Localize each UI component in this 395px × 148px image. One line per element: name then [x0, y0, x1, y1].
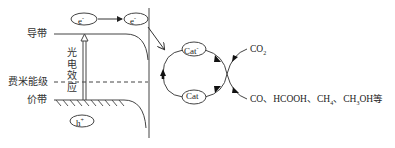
valence-band-line [54, 100, 146, 128]
bold-arrow-product-out [232, 87, 239, 93]
electron-oval [71, 13, 97, 25]
cat-reduced-label: Cat- [184, 44, 199, 56]
electron-to-catalyst-arrow [148, 27, 164, 49]
electron-interface-label: e- [130, 14, 136, 26]
co2-label: CO2 [250, 44, 266, 58]
hole-label: h+ [76, 116, 84, 128]
band-diagram-graphic [0, 0, 395, 148]
valence-band-hatching [56, 100, 124, 106]
fermi-level-label: 费米能级 [8, 77, 48, 87]
products-label: CO、HCOOH、CH4、CH3OH等 [250, 94, 383, 108]
conduction-band-label: 导带 [27, 29, 47, 39]
valence-band-label: 价带 [27, 95, 47, 105]
catalyst-cycle-left-arc [163, 50, 183, 97]
bold-arrow-co2-in [232, 55, 238, 62]
photoelectric-effect-label: 光 电 效 应 [66, 47, 77, 93]
photo-excitation-arrow [81, 34, 88, 100]
electron-interface-oval [124, 13, 148, 25]
cycle-up-arrow [160, 69, 166, 76]
product-output-curve [227, 74, 247, 99]
electron-label: e- [78, 14, 84, 26]
co2-input-curve [227, 49, 247, 74]
cat-neutral-label: Cat [186, 92, 199, 101]
